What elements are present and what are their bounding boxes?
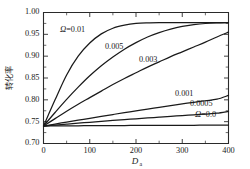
y-axis-title: 转化率 <box>4 66 14 90</box>
curve-label-0: Ω=0.01 <box>60 24 85 34</box>
x-tick-label: 400 <box>222 146 234 155</box>
x-tick-label: 0 <box>41 146 45 155</box>
chart-figure: 0.700.750.800.850.900.951.00 01002003004… <box>0 0 250 169</box>
x-axis-title-subscript: a <box>140 161 143 167</box>
curve-label-1: 0.005 <box>105 42 123 51</box>
conversion-rate-vs-damkohler-chart: 0.700.750.800.850.900.951.00 01002003004… <box>0 0 250 169</box>
curve-label-4: 0.0005 <box>190 99 213 108</box>
y-tick-label: 0.75 <box>25 117 40 126</box>
y-tick-label: 0.80 <box>25 95 40 104</box>
omega-value: =0.0 <box>201 110 216 119</box>
x-tick-label: 300 <box>176 146 188 155</box>
x-tick-label: 200 <box>130 146 142 155</box>
curve-label-5: Ω=0.0 <box>195 109 216 119</box>
y-tick-label: 1.00 <box>25 7 40 16</box>
y-tick-label: 0.95 <box>25 29 40 38</box>
x-tick-label: 100 <box>84 146 96 155</box>
y-tick-label: 0.85 <box>25 73 40 82</box>
curve-label-3: 0.001 <box>175 89 193 98</box>
x-axis-title: D <box>131 156 139 166</box>
y-tick-label: 0.90 <box>25 51 40 60</box>
y-tick-label: 0.70 <box>25 138 40 147</box>
curve-label-2: 0.003 <box>139 55 157 64</box>
omega-value: =0.01 <box>66 25 85 34</box>
